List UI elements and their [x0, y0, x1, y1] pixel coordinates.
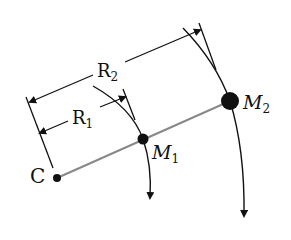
- r1-dimension-left: [40, 121, 68, 133]
- radius2-label-sub: 2: [111, 70, 119, 84]
- extension-line-center: [26, 97, 53, 168]
- mass-1: [138, 134, 149, 145]
- mass1-label-sub: 1: [171, 152, 179, 166]
- center-point: [53, 174, 61, 182]
- mass-2: [221, 92, 239, 110]
- mass1-label: M1: [152, 141, 179, 166]
- extension-line-r2: [199, 23, 216, 70]
- radius1-label-text: R: [72, 107, 86, 128]
- mass2-label-text: M: [243, 91, 262, 113]
- mass1-label-text: M: [152, 141, 171, 163]
- radius1-label-sub: 1: [86, 117, 94, 131]
- mass2-label-sub: 2: [262, 102, 270, 116]
- radius2-label-text: R: [97, 60, 111, 81]
- center-label: C: [30, 164, 45, 188]
- radius1-label: R1: [72, 107, 93, 131]
- radius2-label: R2: [97, 60, 118, 84]
- r2-dimension-left: [30, 75, 93, 102]
- m2-motion-arc: [183, 28, 244, 216]
- center-label-text: C: [30, 164, 45, 188]
- mass2-label: M2: [243, 91, 270, 116]
